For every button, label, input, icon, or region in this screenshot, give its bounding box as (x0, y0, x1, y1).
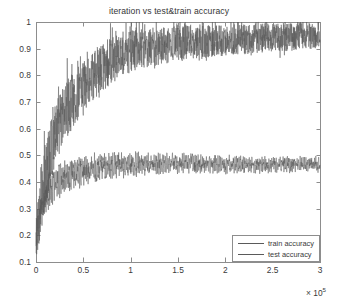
x-tick-label: 1 (118, 265, 144, 275)
legend-label-test-accuracy: test accuracy (268, 250, 312, 259)
x-tick-label: 2 (212, 265, 238, 275)
series-train-accuracy (36, 22, 320, 254)
y-tick-label: 0.4 (5, 177, 31, 187)
x-tick-label: 0.5 (70, 265, 96, 275)
x-tick-label: 3 (307, 265, 333, 275)
y-tick-label: 0.3 (5, 204, 31, 214)
y-tick-label: 0.8 (5, 70, 31, 80)
matlab-figure-window: iteration vs test&train accuracy 0.10.20… (0, 0, 338, 307)
y-tick-label: 0.9 (5, 44, 31, 54)
y-tick-label: 0.7 (5, 97, 31, 107)
plot-series-layer (36, 22, 320, 254)
x-axis-exponent-label: × 105 (306, 286, 326, 298)
y-tick-label: 0.2 (5, 230, 31, 240)
chart-legend[interactable]: train accuracy test accuracy (232, 235, 320, 262)
y-tick-label: 1 (5, 17, 31, 27)
x-tick-label: 0 (23, 265, 49, 275)
series-test-accuracy (36, 151, 320, 246)
legend-label-train-accuracy: train accuracy (268, 239, 314, 248)
legend-swatch-train-accuracy (238, 243, 264, 244)
y-tick-label: 0.5 (5, 150, 31, 160)
x-tick-label: 2.5 (260, 265, 286, 275)
x-exponent-power: 5 (323, 286, 326, 293)
legend-item-train-accuracy[interactable]: train accuracy (236, 238, 316, 249)
legend-swatch-test-accuracy (238, 254, 264, 255)
x-tick-label: 1.5 (165, 265, 191, 275)
legend-item-test-accuracy[interactable]: test accuracy (236, 249, 316, 260)
x-exponent-prefix: × 10 (306, 288, 323, 298)
y-tick-label: 0.6 (5, 124, 31, 134)
